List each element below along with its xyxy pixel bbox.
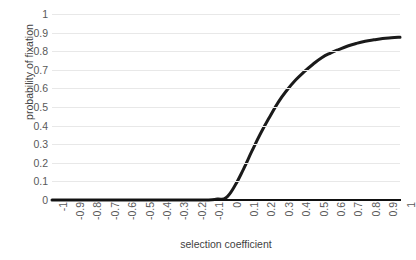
x-tick-label: -0.5 bbox=[145, 202, 156, 238]
x-tick-label: -0.7 bbox=[110, 202, 121, 238]
x-tick-label: -0.2 bbox=[197, 202, 208, 238]
x-tick-label: -1 bbox=[58, 202, 69, 238]
fixation-probability-chart: probability of fixation 10.90.80.70.60.5… bbox=[0, 0, 416, 260]
x-axis-title: selection coefficient bbox=[52, 238, 400, 250]
x-tick-label: 0.4 bbox=[301, 202, 312, 238]
x-tick-label: 0.3 bbox=[284, 202, 295, 238]
x-tick-label: 0.6 bbox=[336, 202, 347, 238]
x-axis-tick-labels: -1-0.9-0.8-0.7-0.6-0.5-0.4-0.3-0.2-0.100… bbox=[0, 0, 416, 260]
x-tick-label: 1 bbox=[406, 202, 416, 238]
x-tick-label: -0.8 bbox=[92, 202, 103, 238]
x-tick-label: -0.4 bbox=[162, 202, 173, 238]
x-tick-label: -0.9 bbox=[75, 202, 86, 238]
x-tick-label: 0.1 bbox=[249, 202, 260, 238]
x-tick-label: 0.8 bbox=[371, 202, 382, 238]
x-tick-label: 0.9 bbox=[388, 202, 399, 238]
x-tick-label: 0.7 bbox=[353, 202, 364, 238]
x-tick-label: 0.5 bbox=[319, 202, 330, 238]
x-tick-label: -0.3 bbox=[179, 202, 190, 238]
x-tick-label: 0 bbox=[232, 202, 243, 238]
x-tick-label: 0.2 bbox=[266, 202, 277, 238]
x-tick-label: -0.6 bbox=[127, 202, 138, 238]
x-tick-label: -0.1 bbox=[214, 202, 225, 238]
